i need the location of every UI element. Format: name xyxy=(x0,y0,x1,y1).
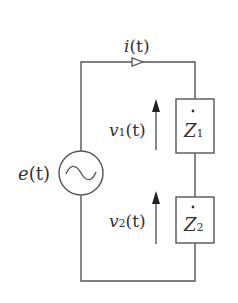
source-label: e(t) xyxy=(18,163,50,184)
voltage-v1-label: v1(t) xyxy=(109,120,146,140)
phasor-dot-icon xyxy=(192,206,195,209)
current-label: i(t) xyxy=(124,36,150,56)
voltage-v2-arrow-icon xyxy=(152,191,160,244)
voltage-v1-arrow-icon xyxy=(152,99,160,150)
phasor-dot-icon xyxy=(192,110,195,113)
ac-source-icon xyxy=(59,151,103,195)
voltage-v2-label: v2(t) xyxy=(109,211,146,231)
current-direction-arrow-icon xyxy=(132,58,143,66)
circuit-diagram: i(t) e(t) Z1 Z2 v1(t) v2(t) xyxy=(0,0,238,303)
